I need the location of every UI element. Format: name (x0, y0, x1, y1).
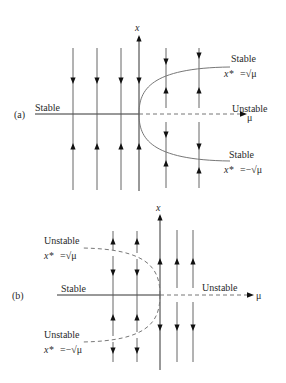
lower-branch-stability: Unstable (44, 329, 80, 340)
unstable-lower-branch (82, 295, 160, 342)
flow-arrow-up-icon (110, 314, 115, 321)
stable-lower-branch (139, 114, 230, 161)
flow-arrow-up-icon (70, 143, 75, 150)
upper-branch-eq-lhs: x* (43, 250, 53, 261)
flow-arrow-up-icon (94, 143, 99, 150)
upper-branch-eq-rhs: =√μ (60, 250, 77, 261)
flow-lines-left (70, 48, 141, 190)
flow-arrow-up-icon (174, 258, 179, 265)
mu-axis-arrow-icon (247, 292, 254, 298)
x-axis-label: x (155, 202, 161, 213)
flow-arrow-down-icon (134, 270, 139, 277)
panel-tag-b: (b) (12, 290, 24, 302)
x-axis-arrow-icon (136, 35, 141, 42)
upper-branch-eq-lhs: x* (223, 68, 233, 79)
upper-branch-stability: Unstable (44, 235, 80, 246)
flow-arrow-up-icon (196, 87, 201, 94)
flow-arrow-up-icon (134, 238, 139, 245)
flow-arrow-down-icon (196, 144, 201, 151)
flow-arrow-up-icon (157, 258, 162, 265)
flow-arrow-down-icon (190, 325, 195, 332)
lower-branch-eq-rhs: =−√μ (240, 164, 262, 175)
flow-arrow-down-icon (163, 132, 168, 139)
left-stable-label: Stable (61, 283, 87, 294)
bifurcation-diagram: (a) Stable x Unstable μ Stable x* =√μ St… (0, 0, 286, 383)
left-stable-label: Stable (35, 102, 61, 113)
lower-branch-eq-lhs: x* (223, 164, 233, 175)
panel-tag-a: (a) (14, 109, 25, 121)
flow-arrow-down-icon (110, 270, 115, 277)
mu-axis-label: μ (247, 112, 252, 123)
x-axis-arrow-icon (157, 214, 162, 221)
lower-branch-eq-lhs: x* (43, 344, 53, 355)
flow-arrow-up-icon (163, 87, 168, 94)
mu-axis-label: μ (256, 290, 261, 301)
stable-upper-branch (139, 67, 230, 114)
flow-arrow-down-icon (196, 53, 201, 60)
unstable-upper-branch (82, 248, 160, 295)
flow-arrow-down-icon (163, 59, 168, 66)
unstable-axis-label: Unstable (202, 282, 238, 293)
upper-branch-eq-rhs: =√μ (240, 68, 257, 79)
flow-arrow-down-icon (110, 348, 115, 355)
flow-arrow-down-icon (118, 78, 123, 85)
flow-arrow-down-icon (136, 78, 141, 85)
flow-arrow-up-icon (110, 238, 115, 245)
flow-arrow-up-icon (136, 143, 141, 150)
flow-arrow-up-icon (163, 160, 168, 167)
flow-arrow-up-icon (118, 143, 123, 150)
flow-arrow-down-icon (134, 348, 139, 355)
panel-a: (a) Stable x Unstable μ Stable x* =√μ St… (14, 22, 268, 191)
flow-arrow-up-icon (196, 167, 201, 174)
flow-arrow-down-icon (94, 78, 99, 85)
panel-b: (b) Stable x Unstable μ Unstable x* =√μ … (12, 202, 261, 370)
lower-branch-stability: Stable (229, 149, 255, 160)
flow-arrow-up-icon (190, 258, 195, 265)
flow-arrow-down-icon (70, 78, 75, 85)
upper-branch-stability: Stable (231, 53, 257, 64)
flow-arrow-down-icon (157, 325, 162, 332)
lower-branch-eq-rhs: =−√μ (60, 344, 82, 355)
flow-arrow-down-icon (174, 325, 179, 332)
flow-arrow-up-icon (134, 314, 139, 321)
x-axis-label: x (134, 22, 140, 33)
flow-lines-right (157, 230, 195, 362)
